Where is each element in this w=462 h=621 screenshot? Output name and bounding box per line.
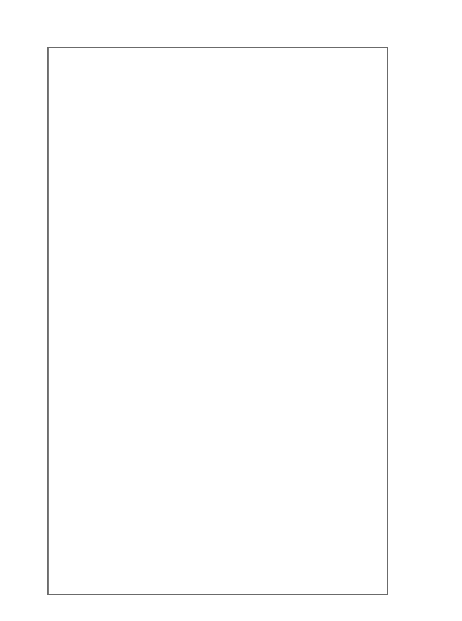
x-axis bbox=[0, 24, 462, 46]
plot-area bbox=[47, 47, 388, 595]
region-label-column bbox=[388, 47, 462, 595]
city-label-column bbox=[0, 47, 47, 595]
zero-reference-line bbox=[48, 48, 49, 594]
forest-plot-figure bbox=[0, 0, 462, 621]
